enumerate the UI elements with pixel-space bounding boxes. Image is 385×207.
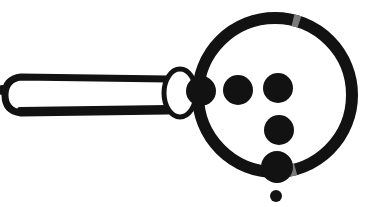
dot-row1-1 bbox=[186, 76, 216, 106]
dot-row1-3 bbox=[263, 73, 293, 103]
dot-below-lens bbox=[270, 190, 282, 202]
dot-row1-2 bbox=[223, 75, 253, 105]
magnifying-glass-artwork bbox=[0, 0, 385, 207]
illustration-canvas: Magnifying Glass Line Art bbox=[0, 0, 385, 207]
handle-underline-shading bbox=[20, 108, 168, 110]
lens-gap-top bbox=[293, 20, 299, 22]
dot-row2-1 bbox=[264, 115, 294, 145]
dot-row3-1 bbox=[261, 151, 293, 183]
handle-group bbox=[5, 77, 174, 113]
